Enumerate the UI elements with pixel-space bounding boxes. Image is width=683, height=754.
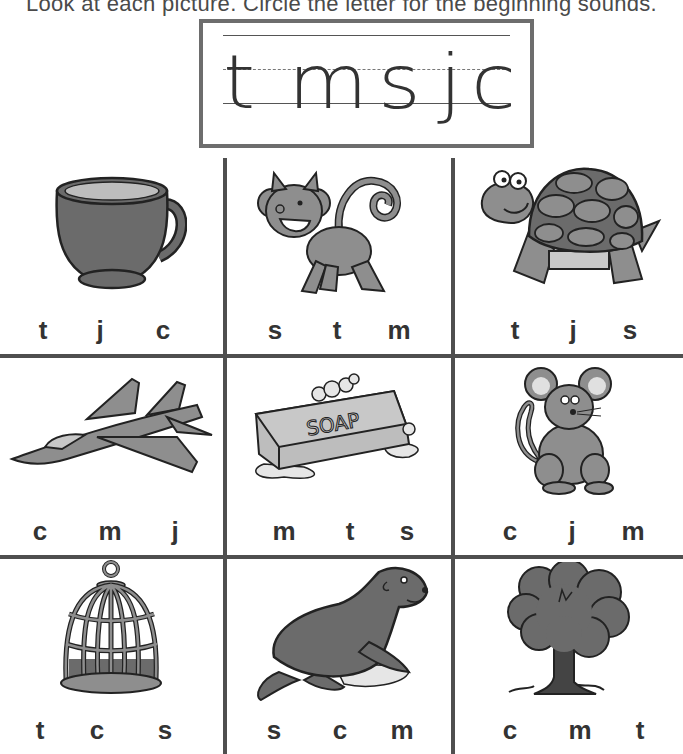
choice-soap-t[interactable]: t — [335, 516, 365, 547]
instructions-text: Look at each picture. Circle the letter … — [0, 0, 683, 17]
cell-seal: s c m — [227, 559, 451, 754]
choice-monkey-t[interactable]: t — [322, 315, 352, 346]
cell-turtle: t j s — [455, 158, 683, 354]
choice-jet-c[interactable]: c — [25, 516, 55, 547]
cell-jet: c m j — [0, 358, 223, 555]
birdcage-icon — [54, 559, 169, 704]
choice-mouse-j[interactable]: j — [557, 516, 587, 547]
choice-tree-c[interactable]: c — [495, 715, 525, 746]
jet-icon — [7, 377, 217, 487]
choice-seal-m[interactable]: m — [387, 715, 417, 746]
choice-cage-s[interactable]: s — [150, 715, 180, 746]
cell-soap: SOAP m t s — [227, 358, 451, 555]
choice-tree-m[interactable]: m — [565, 715, 595, 746]
choice-turtle-j[interactable]: j — [558, 315, 588, 346]
choice-soap-s[interactable]: s — [392, 516, 422, 547]
seal-icon — [249, 562, 429, 702]
choice-turtle-s[interactable]: s — [615, 315, 645, 346]
choice-monkey-s[interactable]: s — [260, 315, 290, 346]
choice-jet-m[interactable]: m — [95, 516, 125, 547]
choice-cup-c[interactable]: c — [148, 315, 178, 346]
cup-icon — [37, 169, 187, 294]
reference-letter-t: t — [223, 44, 255, 119]
cell-tree: c m t — [455, 559, 683, 754]
choice-tree-t[interactable]: t — [625, 715, 655, 746]
choice-cage-c[interactable]: c — [82, 715, 112, 746]
choice-jet-j[interactable]: j — [160, 516, 190, 547]
cell-mouse: c j m — [455, 358, 683, 555]
cell-cup: t j c — [0, 158, 223, 354]
choice-cup-t[interactable]: t — [28, 315, 58, 346]
choice-monkey-m[interactable]: m — [384, 315, 414, 346]
monkey-icon — [244, 161, 434, 301]
choice-soap-m[interactable]: m — [269, 516, 299, 547]
choice-turtle-t[interactable]: t — [500, 315, 530, 346]
cell-monkey: s t m — [227, 158, 451, 354]
choice-mouse-c[interactable]: c — [495, 516, 525, 547]
soap-icon: SOAP — [244, 369, 434, 494]
reference-letter-c: c — [471, 44, 516, 119]
choice-seal-c[interactable]: c — [325, 715, 355, 746]
choice-mouse-m[interactable]: m — [618, 516, 648, 547]
reference-letter-m: m — [288, 44, 368, 119]
letter-reference-box: t m s j c — [199, 19, 534, 148]
cell-cage: t c s — [0, 559, 223, 754]
mouse-icon — [509, 362, 629, 502]
choice-cage-t[interactable]: t — [25, 715, 55, 746]
reference-letter-j: j — [439, 44, 462, 119]
choice-cup-j[interactable]: j — [85, 315, 115, 346]
tree-icon — [504, 562, 634, 702]
choice-seal-s[interactable]: s — [259, 715, 289, 746]
reference-letter-s: s — [378, 44, 421, 119]
turtle-icon — [474, 161, 664, 301]
